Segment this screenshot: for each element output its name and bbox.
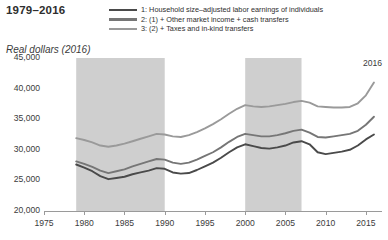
legend-swatch-icon-3 (109, 28, 137, 31)
x-tick-mark (326, 211, 327, 215)
x-tick-label: 2005 (265, 218, 305, 228)
legend-item-3: 3: (2) + Taxes and in-kind transfers (109, 24, 323, 34)
y-tick-label: 20,000 (0, 205, 40, 215)
x-tick-label: 2000 (225, 218, 265, 228)
chart-container: 1979–2016 Real dollars (2016) 2016 1: Ho… (0, 0, 388, 240)
x-tick-mark (205, 211, 206, 215)
legend-swatch-icon-2 (109, 18, 137, 21)
legend-label-3: 3: (2) + Taxes and in-kind transfers (141, 24, 253, 34)
x-tick-mark (165, 211, 166, 215)
plot-area (44, 58, 382, 211)
legend-item-2: 2: (1) + Other market income + cash tran… (109, 15, 323, 25)
x-tick-label: 1995 (185, 218, 225, 228)
legend-label-2: 2: (1) + Other market income + cash tran… (141, 15, 289, 25)
x-tick-label: 1990 (145, 218, 185, 228)
x-tick-label: 1980 (64, 218, 104, 228)
y-tick-label: 30,000 (0, 144, 40, 154)
x-tick-mark (44, 211, 45, 215)
x-tick-mark (245, 211, 246, 215)
y-axis-labels: 20,00025,00030,00035,00040,00045,000 (0, 0, 40, 240)
x-tick-label: 1975 (24, 218, 64, 228)
y-tick-label: 40,000 (0, 83, 40, 93)
legend-label-1: 1: Household size–adjusted labor earning… (141, 5, 323, 15)
y-tick-label: 45,000 (0, 52, 40, 62)
x-tick-mark (366, 211, 367, 215)
chart-legend: 1: Household size–adjusted labor earning… (109, 5, 323, 34)
y-tick-label: 35,000 (0, 113, 40, 123)
legend-item-1: 1: Household size–adjusted labor earning… (109, 5, 323, 15)
x-axis-line (44, 211, 382, 212)
x-tick-label: 1985 (104, 218, 144, 228)
x-tick-mark (285, 211, 286, 215)
x-tick-mark (124, 211, 125, 215)
x-tick-mark (84, 211, 85, 215)
legend-swatch-icon-1 (109, 9, 137, 12)
plot-svg (44, 58, 382, 211)
y-tick-label: 25,000 (0, 174, 40, 184)
x-tick-label: 2010 (306, 218, 346, 228)
x-tick-label: 2015 (346, 218, 386, 228)
